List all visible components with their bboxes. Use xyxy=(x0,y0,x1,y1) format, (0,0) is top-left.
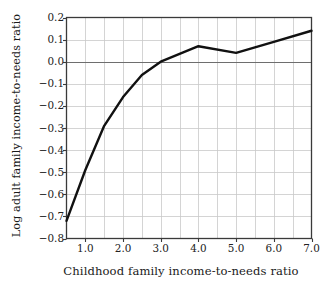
chart-figure: Log adult family income-to-needs ratio 0… xyxy=(0,0,333,288)
x-axis-title: Childhood family income-to-needs ratio xyxy=(36,264,326,278)
plot-canvas xyxy=(0,0,333,288)
axis-tick-marks xyxy=(63,19,313,243)
